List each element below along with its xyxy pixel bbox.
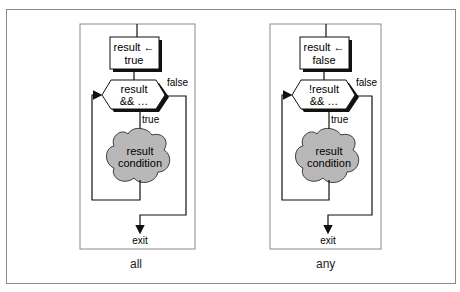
exit-label: exit	[320, 235, 336, 246]
true-label: true	[331, 114, 349, 125]
test-line1: !result	[309, 83, 339, 95]
init-line2: true	[125, 54, 144, 66]
body-line2: condition	[118, 157, 162, 169]
init-line2: false	[312, 54, 335, 66]
init-line1: result ←	[304, 41, 345, 53]
exit-label: exit	[132, 235, 148, 246]
true-label: true	[142, 114, 160, 125]
test-line2: && …	[310, 95, 339, 107]
caption-any: any	[316, 257, 335, 271]
body-line1: result	[127, 145, 154, 157]
init-line1: result ←	[114, 41, 155, 53]
diagram-all: result ← true result && … false true res…	[80, 24, 195, 249]
test-line2: && …	[120, 95, 149, 107]
false-label: false	[167, 77, 189, 88]
caption-all: all	[130, 257, 142, 271]
test-line1: result	[121, 83, 148, 95]
false-label: false	[356, 77, 378, 88]
body-line1: result	[316, 145, 343, 157]
flowchart-canvas: result ← true result && … false true res…	[0, 0, 460, 292]
body-line2: condition	[307, 157, 351, 169]
diagram-any: result ← false !result && … false true r…	[270, 24, 381, 249]
